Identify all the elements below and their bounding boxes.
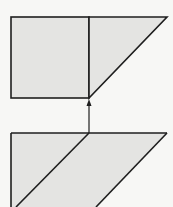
- diagram-canvas: [0, 0, 173, 207]
- up-arrow-icon: [87, 99, 92, 133]
- top-rectangle: [11, 17, 89, 98]
- top-triangle: [89, 17, 167, 98]
- bottom-parallelogram: [11, 133, 167, 207]
